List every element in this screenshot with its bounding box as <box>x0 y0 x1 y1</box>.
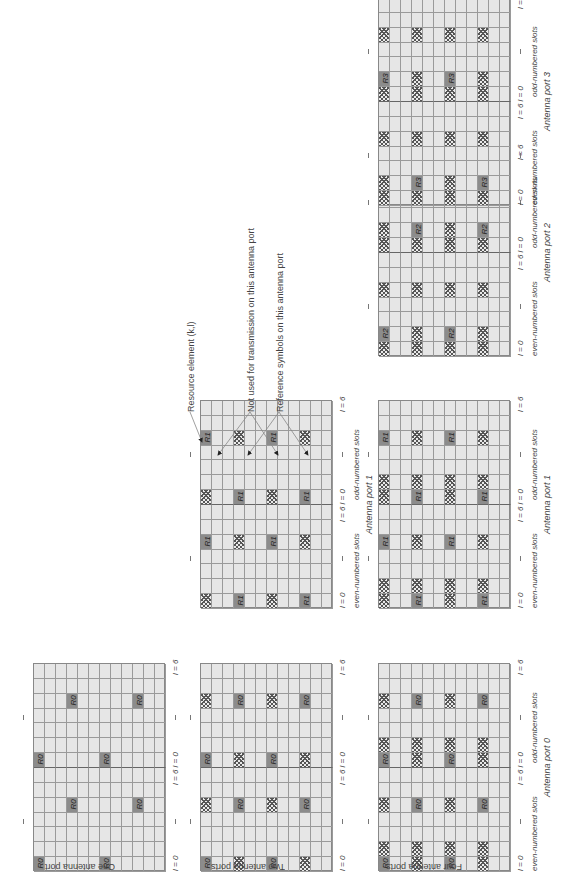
reference-symbol-cell: R0 <box>234 694 245 709</box>
resource-element-cell <box>423 535 434 550</box>
resource-element-cell <box>412 709 423 724</box>
resource-element-cell <box>223 401 234 416</box>
unused-resource-cell <box>379 238 390 253</box>
resource-element-cell <box>401 475 412 490</box>
resource-element-cell <box>322 550 333 565</box>
resource-element-cell <box>478 161 489 176</box>
unused-resource-cell <box>379 191 390 206</box>
resource-element-cell <box>390 798 401 813</box>
resource-element-cell <box>467 505 478 520</box>
legend-reference-symbols: Reference symbols on this antenna port <box>275 253 285 412</box>
resource-element-cell <box>390 723 401 738</box>
resource-element-cell <box>456 768 467 783</box>
resource-element-cell <box>256 460 267 475</box>
resource-element-cell <box>500 28 511 43</box>
slot-tick <box>368 304 369 309</box>
resource-element-cell <box>445 117 456 132</box>
resource-element-cell <box>467 431 478 446</box>
resource-element-cell <box>245 460 256 475</box>
resource-element-cell <box>223 460 234 475</box>
resource-element-cell <box>278 738 289 753</box>
resource-element-cell <box>56 783 67 798</box>
resource-element-cell <box>445 664 456 679</box>
resource-element-cell <box>78 783 89 798</box>
resource-element-cell <box>322 431 333 446</box>
resource-element-cell <box>390 43 401 58</box>
resource-element-cell <box>111 723 122 738</box>
resource-element-cell <box>489 490 500 505</box>
resource-element-cell <box>390 827 401 842</box>
axis-label-l6: l = 6 <box>338 397 347 412</box>
resource-element-cell <box>489 342 500 357</box>
unused-resource-cell <box>300 753 311 768</box>
resource-element-cell <box>245 798 256 813</box>
resource-element-cell <box>289 842 300 857</box>
resource-element-cell <box>500 253 511 268</box>
axis-label-l6: l = 6 <box>516 0 525 9</box>
resource-element-cell <box>133 857 144 872</box>
resource-element-cell <box>56 679 67 694</box>
resource-element-cell <box>379 416 390 431</box>
unused-resource-cell <box>379 283 390 298</box>
resource-element-cell <box>56 768 67 783</box>
resource-element-cell <box>311 813 322 828</box>
resource-element-cell <box>133 827 144 842</box>
resource-element-cell <box>467 283 478 298</box>
resource-element-cell <box>489 768 500 783</box>
unused-resource-cell <box>379 28 390 43</box>
resource-element-cell <box>34 798 45 813</box>
resource-element-cell <box>45 842 56 857</box>
unused-resource-cell <box>445 798 456 813</box>
antenna-port-label: Antenna port 2 <box>542 223 552 282</box>
resource-element-cell <box>56 664 67 679</box>
resource-element-cell <box>278 431 289 446</box>
resource-element-cell <box>300 709 311 724</box>
resource-element-cell <box>401 283 412 298</box>
resource-element-cell <box>311 564 322 579</box>
resource-element-cell <box>456 723 467 738</box>
resource-element-cell <box>467 312 478 327</box>
resource-element-cell <box>267 446 278 461</box>
resource-element-cell <box>412 416 423 431</box>
resource-element-cell <box>155 723 166 738</box>
resource-element-cell <box>489 191 500 206</box>
resource-element-cell <box>423 87 434 102</box>
resource-element-cell <box>100 738 111 753</box>
resource-element-cell <box>201 813 212 828</box>
resource-element-cell <box>144 813 155 828</box>
resource-element-cell <box>133 664 144 679</box>
resource-element-cell <box>489 842 500 857</box>
resource-element-cell <box>478 679 489 694</box>
resource-grid-two-p1: R1R1R1R1R1R1R1R1 <box>200 400 332 608</box>
resource-element-cell <box>423 550 434 565</box>
resource-element-cell <box>467 327 478 342</box>
resource-element-cell <box>478 723 489 738</box>
even-slots-label: even-numbered slots <box>530 796 539 871</box>
slot-tick <box>342 452 343 457</box>
resource-element-cell <box>379 664 390 679</box>
resource-element-cell <box>322 768 333 783</box>
resource-element-cell <box>300 446 311 461</box>
axis-label-l6-l0: l = 6 l = 0 <box>516 489 525 522</box>
resource-element-cell <box>434 223 445 238</box>
resource-element-cell <box>423 132 434 147</box>
reference-symbol-label: R3 <box>414 178 423 188</box>
resource-element-cell <box>267 475 278 490</box>
resource-element-cell <box>89 723 100 738</box>
resource-element-cell <box>300 664 311 679</box>
slot-tick <box>368 49 369 54</box>
reference-symbol-label: R1 <box>302 492 311 502</box>
resource-element-cell <box>467 0 478 13</box>
resource-element-cell <box>423 564 434 579</box>
unused-resource-cell <box>478 475 489 490</box>
resource-element-cell <box>489 401 500 416</box>
slot-tick <box>520 153 521 158</box>
resource-element-cell <box>155 738 166 753</box>
resource-element-cell <box>467 268 478 283</box>
resource-element-cell <box>390 709 401 724</box>
resource-element-cell <box>322 664 333 679</box>
reference-symbol-label: R1 <box>269 432 278 442</box>
resource-element-cell <box>401 594 412 609</box>
resource-element-cell <box>489 268 500 283</box>
reference-symbol-label: R1 <box>414 492 423 502</box>
